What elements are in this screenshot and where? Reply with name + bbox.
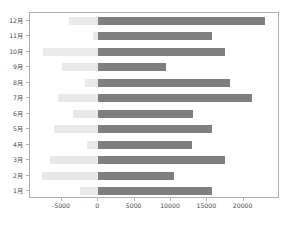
bar-segment-negative — [62, 63, 98, 71]
x-axis-tick-label: 0 — [95, 202, 99, 209]
y-axis-tick-label: 6月 — [0, 108, 23, 117]
bar-row — [30, 63, 278, 71]
bar-segment-negative — [42, 172, 99, 180]
bar-row — [30, 172, 278, 180]
bar-row — [30, 94, 278, 102]
x-axis: -500005000100001500020000 — [0, 198, 285, 226]
chart-container: 1月2月3月4月5月6月7月8月9月10月11月12月 -50000500010… — [0, 0, 285, 226]
bar-row — [30, 125, 278, 133]
bar-segment-negative — [58, 94, 98, 102]
x-axis-tick-label: 20000 — [233, 202, 253, 209]
bar-row — [30, 79, 278, 87]
x-axis-tick-mark — [206, 198, 207, 201]
bar-segment-negative — [73, 110, 99, 118]
bar-segment-positive — [98, 63, 166, 71]
y-axis-tick-label: 12月 — [0, 15, 23, 24]
plot-area — [29, 12, 279, 198]
bar-segment-positive — [98, 172, 174, 180]
bar-row — [30, 110, 278, 118]
y-axis-tick-label: 3月 — [0, 155, 23, 164]
bar-segment-positive — [98, 110, 193, 118]
bar-segment-positive — [98, 125, 212, 133]
bar-segment-negative — [87, 141, 99, 149]
x-axis-tick-mark — [134, 198, 135, 201]
bar-segment-positive — [98, 94, 251, 102]
y-axis-tick-label: 5月 — [0, 124, 23, 133]
bar-segment-positive — [98, 32, 211, 40]
bar-segment-positive — [98, 156, 224, 164]
bar-row — [30, 48, 278, 56]
x-axis-tick-mark — [170, 198, 171, 201]
bar-row — [30, 17, 278, 25]
y-axis-tick-label: 9月 — [0, 62, 23, 71]
x-axis-tick-mark — [61, 198, 62, 201]
bar-segment-negative — [85, 79, 98, 87]
y-axis-tick-label: 8月 — [0, 77, 23, 86]
bar-row — [30, 187, 278, 195]
x-axis-tick-label: -5000 — [52, 202, 70, 209]
bar-segment-negative — [50, 156, 98, 164]
x-axis-tick-label: 5000 — [126, 202, 142, 209]
bar-segment-positive — [98, 79, 230, 87]
bar-segment-positive — [98, 141, 192, 149]
x-axis-tick-mark — [243, 198, 244, 201]
y-axis-tick-label: 7月 — [0, 93, 23, 102]
bar-segment-negative — [80, 187, 98, 195]
bar-segment-negative — [43, 48, 98, 56]
bar-row — [30, 156, 278, 164]
y-axis-tick-label: 1月 — [0, 186, 23, 195]
y-axis-tick-label: 10月 — [0, 46, 23, 55]
x-axis-tick-mark — [97, 198, 98, 201]
bars-layer — [30, 13, 278, 197]
x-axis-tick-label: 15000 — [196, 202, 216, 209]
bar-segment-negative — [54, 125, 99, 133]
bar-segment-negative — [69, 17, 98, 25]
bar-segment-positive — [98, 187, 212, 195]
y-axis-tick-label: 11月 — [0, 31, 23, 40]
bar-segment-positive — [98, 17, 265, 25]
y-axis-tick-label: 4月 — [0, 139, 23, 148]
bar-row — [30, 141, 278, 149]
x-axis-tick-label: 10000 — [160, 202, 180, 209]
y-axis-tick-label: 2月 — [0, 170, 23, 179]
bar-row — [30, 32, 278, 40]
y-axis: 1月2月3月4月5月6月7月8月9月10月11月12月 — [0, 12, 29, 198]
bar-segment-positive — [98, 48, 225, 56]
